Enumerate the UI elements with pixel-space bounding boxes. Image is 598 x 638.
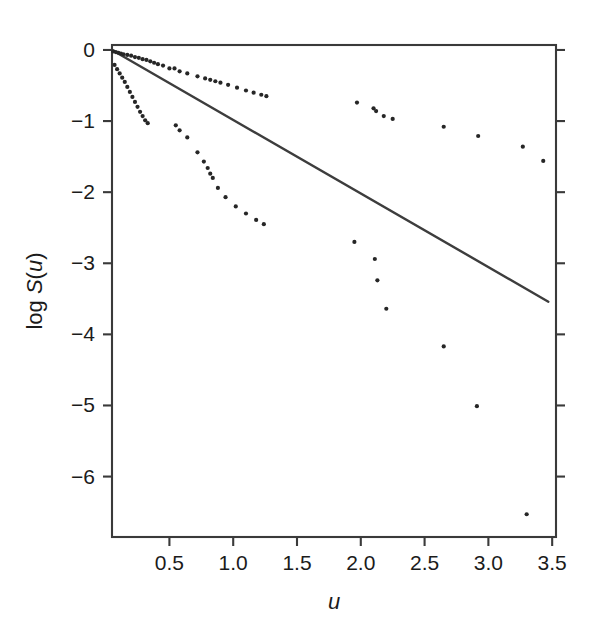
data-point: [254, 218, 258, 222]
y-tick-label-−1: −1: [71, 109, 95, 132]
data-point: [161, 64, 165, 68]
data-point: [475, 404, 479, 408]
data-point: [135, 105, 139, 109]
data-point: [178, 128, 182, 132]
y-tick-label-0: 0: [83, 38, 95, 61]
data-point: [195, 150, 199, 154]
data-point: [521, 145, 525, 149]
data-point: [174, 123, 178, 127]
scatter-plot: 0.51.01.52.02.53.03.50−1−2−3−4−5−6ulog S…: [0, 0, 598, 638]
data-point: [244, 88, 248, 92]
figure-container: 0.51.01.52.02.53.03.50−1−2−3−4−5−6ulog S…: [0, 0, 598, 638]
data-point: [541, 159, 545, 163]
data-point: [213, 79, 217, 83]
data-point: [112, 63, 116, 67]
data-point: [234, 204, 238, 208]
series-lower-steep-series: [112, 63, 149, 125]
series-upper-series: [111, 49, 268, 98]
data-point: [141, 114, 145, 118]
data-point: [123, 80, 127, 84]
data-point: [211, 176, 215, 180]
data-point: [259, 93, 263, 97]
data-point: [144, 58, 148, 62]
data-point: [120, 76, 124, 80]
x-tick-label-3.0: 3.0: [474, 551, 503, 574]
data-point: [235, 86, 239, 90]
data-point: [156, 62, 160, 66]
data-point: [208, 172, 212, 176]
data-point: [125, 85, 129, 89]
series-mid-descending-series: [174, 123, 266, 226]
data-point: [208, 78, 212, 82]
data-point: [355, 100, 359, 104]
series-right-upper-scatter: [355, 100, 545, 162]
data-point: [264, 94, 268, 98]
data-point: [129, 54, 133, 58]
data-point: [195, 74, 199, 78]
data-point: [172, 66, 176, 70]
y-tick-label-−6: −6: [71, 465, 95, 488]
data-point: [146, 121, 150, 125]
data-point: [118, 71, 122, 75]
data-point: [244, 211, 248, 215]
x-tick-label-1.0: 1.0: [219, 551, 248, 574]
data-point: [202, 160, 206, 164]
data-point: [138, 110, 142, 114]
data-point: [128, 90, 132, 94]
data-point: [476, 134, 480, 138]
y-tick-label-−2: −2: [71, 180, 95, 203]
y-tick-label-−4: −4: [71, 322, 95, 345]
data-point: [203, 76, 207, 80]
data-point: [115, 67, 119, 71]
data-point: [442, 125, 446, 129]
x-tick-label-3.5: 3.5: [538, 551, 567, 574]
x-tick-label-0.5: 0.5: [155, 551, 184, 574]
data-point: [148, 59, 152, 63]
data-point: [252, 91, 256, 95]
data-point: [130, 95, 134, 99]
data-point: [352, 240, 356, 244]
data-point: [178, 69, 182, 73]
data-point: [216, 186, 220, 190]
data-point: [384, 307, 388, 311]
y-tick-label-−3: −3: [71, 251, 95, 274]
data-point: [223, 195, 227, 199]
x-tick-label-2.0: 2.0: [346, 551, 375, 574]
data-point: [442, 344, 446, 348]
data-point: [262, 222, 266, 226]
fitted-exponential-line: [112, 50, 548, 302]
x-tick-label-2.5: 2.5: [410, 551, 439, 574]
data-point: [375, 278, 379, 282]
data-point: [167, 66, 171, 70]
data-point: [382, 114, 386, 118]
data-point: [121, 52, 125, 56]
y-axis-title: log S(u): [22, 252, 47, 329]
data-point: [218, 81, 222, 85]
data-point: [206, 166, 210, 170]
data-point: [185, 71, 189, 75]
data-point: [152, 61, 156, 65]
series-right-lower-scatter: [352, 240, 528, 517]
data-point: [525, 512, 529, 516]
x-axis-title: u: [328, 589, 340, 614]
data-point: [125, 53, 129, 57]
data-point: [137, 56, 141, 60]
x-tick-label-1.5: 1.5: [282, 551, 311, 574]
data-point: [141, 57, 145, 61]
data-point: [373, 257, 377, 261]
data-point: [133, 55, 137, 59]
y-tick-label-−5: −5: [71, 393, 95, 416]
data-point: [391, 117, 395, 121]
data-point: [374, 109, 378, 113]
data-point: [185, 135, 189, 139]
data-point: [226, 83, 230, 87]
plot-frame: [112, 45, 556, 537]
data-point: [133, 100, 137, 104]
